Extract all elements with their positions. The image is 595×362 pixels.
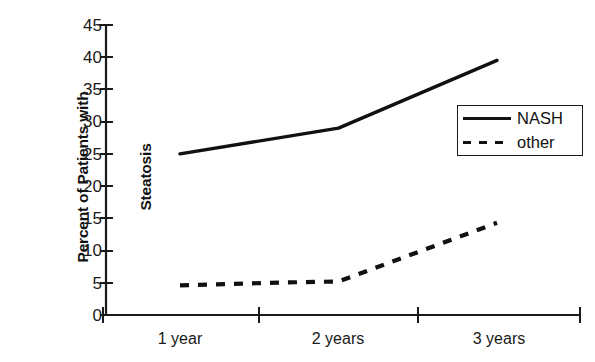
series-line-other: [180, 223, 497, 286]
legend-entry-other: other: [458, 130, 582, 155]
legend-solid-line-sample: [463, 113, 511, 125]
legend-label-other: other: [517, 134, 555, 151]
line-chart: Percent of Patients with Steatosis 45 40…: [0, 0, 595, 362]
legend-dashed-line-sample: [463, 137, 511, 149]
plot-area: [0, 0, 595, 362]
series-line-nash: [180, 60, 497, 153]
legend-entry-nash: NASH: [458, 106, 582, 131]
legend-label-nash: NASH: [517, 110, 563, 127]
legend: NASH other: [457, 105, 583, 156]
